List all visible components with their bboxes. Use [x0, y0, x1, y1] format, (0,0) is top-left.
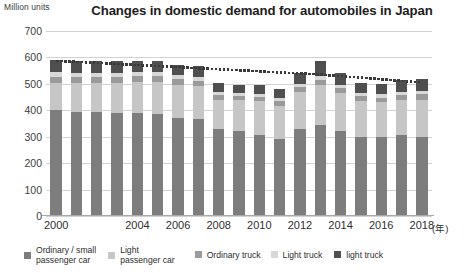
trendline-dot — [341, 75, 344, 78]
trendline-dot — [418, 81, 421, 84]
x-tick-label: 2014 — [328, 219, 352, 231]
trendline-dot — [101, 62, 104, 65]
trendline-dot — [337, 75, 340, 78]
trendline-dot — [93, 61, 96, 64]
trendline-dot — [109, 62, 112, 65]
legend-label: Ordinary truck — [207, 250, 261, 260]
trendline-dot — [381, 78, 384, 81]
trendline-dot — [349, 76, 352, 79]
y-tick-label: 500 — [2, 78, 42, 90]
legend-item[interactable]: Ordinary / small passenger car — [24, 245, 96, 265]
trendline-dot — [121, 63, 124, 66]
y-tick-label: 100 — [2, 184, 42, 196]
trendline-dot — [332, 74, 335, 77]
legend-swatch — [195, 251, 202, 258]
trendline-dot — [60, 60, 63, 63]
chart-legend: Ordinary / small passenger carLight pass… — [24, 240, 464, 270]
legend-item[interactable]: light truck — [334, 250, 383, 260]
trendline-dot — [154, 65, 157, 68]
trendline-dot — [150, 64, 153, 67]
trendline-dot — [117, 63, 120, 66]
trendline-dot — [353, 76, 356, 79]
x-tick-label: 2018 — [410, 219, 434, 231]
trendline-dot — [243, 69, 246, 72]
legend-swatch — [334, 251, 341, 258]
legend-label: Light passenger car — [120, 245, 174, 265]
trendline-dot — [227, 68, 230, 71]
trendline-dot — [402, 80, 405, 83]
trendline-dot — [235, 69, 238, 72]
trendline-dot — [308, 73, 311, 76]
x-axis-line — [42, 215, 434, 216]
trendline-dot — [255, 70, 258, 73]
trendline-dot — [288, 72, 291, 75]
trendline-dot — [280, 71, 283, 74]
trendline-dot — [219, 68, 222, 71]
y-tick-label: 0 — [2, 210, 42, 222]
trendline-dot — [174, 66, 177, 69]
trendline-dot — [263, 70, 266, 73]
trendline-dot — [312, 73, 315, 76]
x-tick-label: 2000 — [44, 219, 68, 231]
trendline-dot — [385, 78, 388, 81]
trendline-dot — [97, 62, 100, 65]
x-tick-label: 2006 — [166, 219, 190, 231]
trendline-dot — [357, 76, 360, 79]
trendline-dot — [105, 62, 108, 65]
trendline-dot — [316, 73, 319, 76]
y-tick-label: 300 — [2, 131, 42, 143]
y-tick-label: 600 — [2, 51, 42, 63]
trendline-dot — [198, 67, 201, 70]
trendline-dot — [125, 63, 128, 66]
trendline-dot — [324, 74, 327, 77]
trendline-dot — [397, 79, 400, 82]
trendline-dot — [182, 66, 185, 69]
y-axis-tick-labels: 0100200300400500600700 — [0, 31, 42, 216]
trendline-dot — [89, 61, 92, 64]
trendline-dot — [414, 81, 417, 84]
trendline-dot — [369, 77, 372, 80]
trendline-dot — [239, 69, 242, 72]
chart-title: Changes in domestic demand for automobil… — [66, 3, 458, 18]
trendline-dot — [137, 64, 140, 67]
trendline-dot — [259, 70, 262, 73]
trendline-dot — [190, 67, 193, 70]
x-tick-label: 2008 — [206, 219, 230, 231]
trendline-dot — [284, 71, 287, 74]
trendline-dot — [72, 60, 75, 63]
trendline-dot — [328, 74, 331, 77]
x-axis-tick-labels: 200020042006200820102012201420162018 — [46, 219, 432, 235]
legend-swatch — [108, 252, 115, 259]
y-tick-label: 400 — [2, 104, 42, 116]
trendline-dot — [304, 72, 307, 75]
trendline-dot — [202, 67, 205, 70]
legend-item[interactable]: Ordinary truck — [195, 250, 261, 260]
legend-label: light truck — [346, 250, 383, 260]
y-tick-label: 700 — [2, 25, 42, 37]
trendline-dot — [162, 65, 165, 68]
trendline-dot — [251, 70, 254, 73]
x-tick-label: 2012 — [288, 219, 312, 231]
plot-area — [46, 31, 432, 216]
y-axis-unit-label: Million units — [4, 2, 50, 12]
trendline-dot — [56, 60, 59, 63]
trendline-dot — [406, 80, 409, 83]
legend-swatch — [24, 252, 31, 259]
trendline-dot — [247, 69, 250, 72]
y-tick-label: 200 — [2, 157, 42, 169]
trendline-dot — [146, 64, 149, 67]
trendline-dot — [81, 61, 84, 64]
trendline-dot — [206, 67, 209, 70]
trendline-dot — [345, 75, 348, 78]
x-tick-label: 2016 — [369, 219, 393, 231]
legend-item[interactable]: Light truck — [271, 250, 323, 260]
trendline-dot — [178, 66, 181, 69]
x-tick-label: 2010 — [247, 219, 271, 231]
trendline-dot — [215, 68, 218, 71]
trendline-dot — [296, 72, 299, 75]
trendline-dot — [85, 61, 88, 64]
legend-item[interactable]: Light passenger car — [108, 245, 174, 265]
trendline-dot — [158, 65, 161, 68]
trendline-dot — [166, 65, 169, 68]
trendline-dot — [129, 63, 132, 66]
